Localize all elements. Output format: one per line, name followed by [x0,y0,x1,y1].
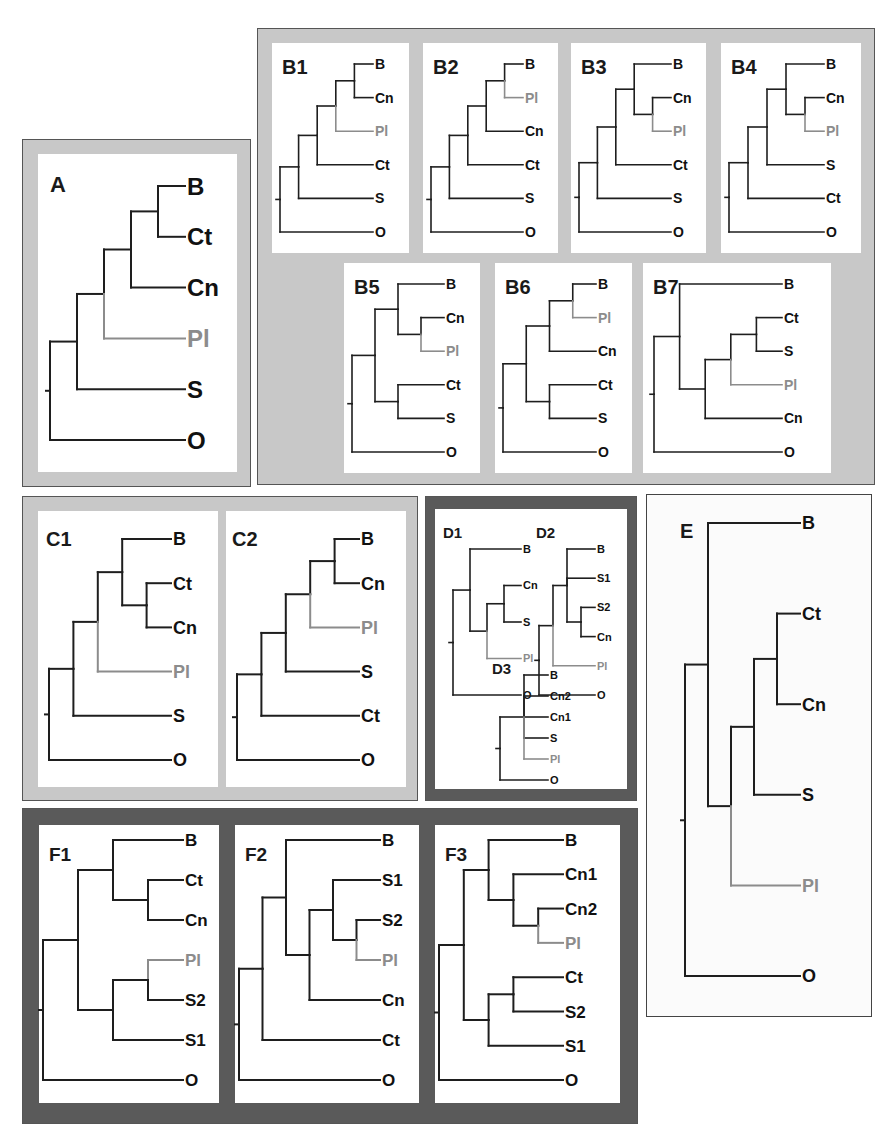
tree-b5: BCnPlCtSO [344,263,480,473]
frame-a: A BCtCnPlSO [22,139,251,487]
tree-c2: BCnPlSCtO [226,511,406,787]
leaf-label-o: O [446,444,457,460]
panel-f1: F1 BCtCnPlS2S1O [39,825,219,1103]
tree-b2: BPlCnCtSO [423,43,558,253]
leaf-label-s: S [673,190,682,206]
tree-b7: BCtSPlCnO [643,263,831,473]
leaf-label-pl: Pl [173,662,190,682]
frame-b: B1 BCnPlCtSO B2 BPlCnCtSO B3 BCnPlCtSO B… [257,28,875,485]
leaf-label-ct: Ct [185,871,203,890]
leaf-label-o: O [826,224,837,240]
leaf-label-ct: Ct [673,157,688,173]
leaf-label-s: S [446,410,455,426]
leaf-label-b: B [598,276,608,292]
tree-f2: BS1S2PlCnCtO [235,825,419,1103]
leaf-label-s: S [375,190,384,206]
leaf-label-s2: S2 [185,991,206,1010]
leaf-label-pl: Pl [185,951,201,970]
leaf-label-o: O [598,444,609,460]
leaf-label-pl: Pl [550,753,560,765]
leaf-label-cn2: Cn2 [565,900,597,919]
leaf-label-s1: S1 [565,1037,586,1056]
leaf-label-cn: Cn [185,911,208,930]
tree-b1: BCnPlCtSO [272,43,409,253]
leaf-label-pl: Pl [446,343,459,359]
leaf-label-b: B [826,56,836,72]
panel-f3: F3 BCn1Cn2PlCtS2S1O [435,825,620,1103]
tree-a: BCtCnPlSO [38,154,237,472]
tree-d3: BCn2Cn1SPlO [435,509,627,789]
panel-d: D1 BCnSPlO D2 BS1S2CnPlO D3 BCn2Cn1SPlO [435,509,627,789]
leaf-label-cn: Cn [525,123,544,139]
panel-a: A BCtCnPlSO [38,154,237,472]
leaf-label-s: S [550,732,557,744]
leaf-label-ct: Ct [802,604,821,624]
leaf-label-cn: Cn [673,90,692,106]
leaf-label-s: S [173,706,185,726]
leaf-label-s: S [525,190,534,206]
leaf-label-o: O [525,224,536,240]
tree-e: BCtCnSPlO [647,495,873,1018]
leaf-label-cn: Cn [375,90,394,106]
tree-f3: BCn1Cn2PlCtS2S1O [435,825,620,1103]
leaf-label-pl: Pl [826,123,839,139]
leaf-label-s: S [361,662,373,682]
frame-c: C1 BCtCnPlSO C2 BCnPlSCtO [22,496,418,801]
leaf-label-cn1: Cn1 [550,711,571,723]
leaf-label-b: B [446,276,456,292]
leaf-label-pl: Pl [784,377,797,393]
leaf-label-pl: Pl [525,90,538,106]
leaf-label-b: B [565,831,577,850]
frame-f: F1 BCtCnPlS2S1O F2 BS1S2PlCnCtO F3 BCn1C… [22,808,638,1124]
leaf-label-s: S [802,785,814,805]
leaf-label-b: B [525,56,535,72]
leaf-label-o: O [784,444,795,460]
leaf-label-b: B [187,173,204,200]
leaf-label-s2: S2 [382,911,403,930]
leaf-label-ct: Ct [565,968,583,987]
leaf-label-cn: Cn [802,695,826,715]
panel-label-e: E [680,521,693,541]
panel-b5: B5 BCnPlCtSO [344,263,480,473]
frame-e: E BCtCnSPlO [646,494,872,1017]
leaf-label-s1: S1 [185,1031,206,1050]
leaf-label-ct: Ct [446,377,461,393]
tree-b4: BCnPlSCtO [721,43,861,253]
leaf-label-b: B [784,276,794,292]
panel-b1: B1 BCnPlCtSO [272,43,409,253]
leaf-label-cn: Cn [187,274,219,301]
leaf-label-pl: Pl [673,123,686,139]
leaf-label-o: O [802,966,816,986]
leaf-label-cn: Cn [598,343,617,359]
leaf-label-ct: Ct [826,190,841,206]
leaf-label-cn2: Cn2 [550,690,571,702]
leaf-label-o: O [550,774,559,786]
tree-c1: BCtCnPlSO [38,511,218,787]
leaf-label-pl: Pl [565,934,581,953]
leaf-label-b: B [173,529,186,549]
leaf-label-b: B [185,831,197,850]
leaf-label-pl: Pl [598,310,611,326]
leaf-label-cn: Cn [361,574,385,594]
leaf-label-ct: Ct [173,574,192,594]
leaf-label-o: O [185,1071,198,1090]
leaf-label-b: B [550,669,558,681]
panel-c2: C2 BCnPlSCtO [226,511,406,787]
leaf-label-o: O [382,1071,395,1090]
leaf-label-ct: Ct [361,706,380,726]
panel-f2: F2 BS1S2PlCnCtO [235,825,419,1103]
frame-d: D1 BCnSPlO D2 BS1S2CnPlO D3 BCn2Cn1SPlO [425,496,637,801]
tree-f1: BCtCnPlS2S1O [39,825,219,1103]
leaf-label-s: S [784,343,793,359]
leaf-label-ct: Ct [382,1031,400,1050]
leaf-label-ct: Ct [525,157,540,173]
leaf-label-pl: Pl [375,123,388,139]
leaf-label-s2: S2 [565,1003,586,1022]
leaf-label-b: B [382,831,394,850]
leaf-label-s: S [598,410,607,426]
panel-b2: B2 BPlCnCtSO [423,43,558,253]
leaf-label-ct: Ct [598,377,613,393]
leaf-label-pl: Pl [802,876,819,896]
tree-b6: BPlCnCtSO [495,263,632,473]
leaf-label-cn: Cn [173,618,197,638]
